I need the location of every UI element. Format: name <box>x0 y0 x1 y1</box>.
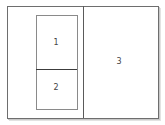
pane-3-label: 3 <box>113 58 125 66</box>
vertical-divider <box>83 6 84 118</box>
horizontal-divider <box>36 69 77 70</box>
pane-2-label: 2 <box>50 84 62 92</box>
pane-1-label: 1 <box>50 39 62 47</box>
inner-box <box>36 15 78 110</box>
